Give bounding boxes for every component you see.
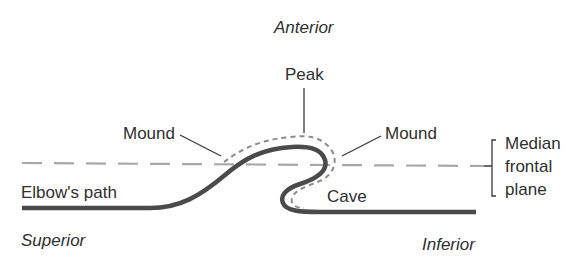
cave-label: Cave (327, 188, 367, 205)
anterior-label: Anterior (274, 19, 334, 36)
diagram-graphics (0, 0, 575, 276)
inferior-label: Inferior (422, 236, 475, 253)
mound-right-label: Mound (385, 125, 437, 142)
median-frontal-plane-line (22, 163, 484, 166)
plane-label-line2: frontal (505, 155, 561, 178)
elbows-path-label: Elbow's path (21, 184, 117, 201)
elbow-path-diagram: Anterior Peak Mound Mound Cave Elbow's p… (0, 0, 575, 276)
mound-left-label: Mound (123, 125, 175, 142)
elbow-path-curve (22, 147, 476, 212)
median-frontal-plane-label: Median frontal plane (505, 132, 561, 201)
mound-right-leader (342, 136, 381, 156)
plane-bracket (484, 140, 496, 196)
peak-label: Peak (285, 66, 324, 83)
mound-left-leader (180, 135, 221, 156)
plane-label-line1: Median (505, 132, 561, 155)
superior-label: Superior (21, 232, 85, 249)
plane-label-line3: plane (505, 178, 561, 201)
